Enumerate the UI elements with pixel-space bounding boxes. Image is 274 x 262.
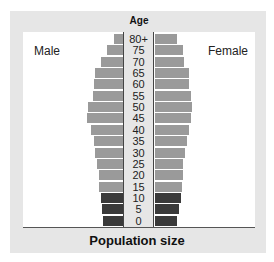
female-bar-45 <box>155 113 191 123</box>
age-tick-label: 0 <box>123 216 154 227</box>
female-bar-35 <box>155 136 187 146</box>
age-tick-label: 10 <box>123 193 154 204</box>
age-tick-label: 75 <box>123 45 154 56</box>
age-tick-label: 50 <box>123 102 154 113</box>
age-tick-label: 70 <box>123 57 154 68</box>
male-bar-45 <box>87 113 123 123</box>
female-bar-0 <box>155 216 177 226</box>
female-bar-55 <box>155 91 191 101</box>
male-bar-50 <box>88 102 123 112</box>
male-bar-55 <box>93 91 123 101</box>
female-bar-30 <box>155 148 185 158</box>
female-bar-10 <box>155 193 181 203</box>
female-bar-60 <box>155 79 189 89</box>
age-tick-label: 45 <box>123 113 154 124</box>
female-label: Female <box>208 44 248 58</box>
female-bar-70 <box>155 57 184 67</box>
female-bar-50 <box>155 102 192 112</box>
male-bar-80+ <box>114 34 123 44</box>
female-bar-65 <box>155 68 189 78</box>
age-tick-label: 65 <box>123 68 154 79</box>
age-tick-label: 30 <box>123 148 154 159</box>
male-bar-40 <box>91 125 123 135</box>
age-tick-label: 5 <box>123 204 154 215</box>
male-bar-5 <box>102 204 123 214</box>
age-tick-label: 15 <box>123 182 154 193</box>
age-axis-title: Age <box>123 15 155 26</box>
male-bar-0 <box>103 216 123 226</box>
male-bar-30 <box>95 148 123 158</box>
age-tick-label: 20 <box>123 170 154 181</box>
male-bar-15 <box>99 182 123 192</box>
age-tick-label: 55 <box>123 91 154 102</box>
age-tick-label: 35 <box>123 136 154 147</box>
x-axis-label: Population size <box>0 233 274 248</box>
female-bar-75 <box>155 45 183 55</box>
female-bar-5 <box>155 204 179 214</box>
female-bar-15 <box>155 182 182 192</box>
age-tick-label: 25 <box>123 159 154 170</box>
female-bar-20 <box>155 170 183 180</box>
age-tick-label: 60 <box>123 79 154 90</box>
female-bar-25 <box>155 159 183 169</box>
male-bar-10 <box>101 193 123 203</box>
age-tick-label: 80+ <box>123 34 154 45</box>
female-bar-80+ <box>155 34 177 44</box>
male-label: Male <box>34 44 60 58</box>
male-bar-35 <box>94 136 123 146</box>
female-bar-40 <box>155 125 189 135</box>
age-tick-label: 40 <box>123 125 154 136</box>
male-bar-70 <box>101 57 123 67</box>
male-bar-65 <box>95 68 123 78</box>
male-bar-75 <box>107 45 123 55</box>
male-bar-20 <box>99 170 123 180</box>
male-bar-25 <box>97 159 123 169</box>
male-bar-60 <box>94 79 123 89</box>
